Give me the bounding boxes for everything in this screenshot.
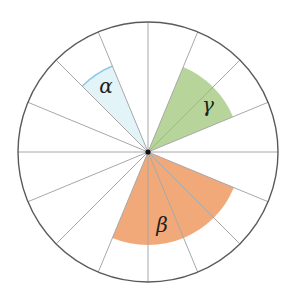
angle-circle-diagram: α γ β [0, 0, 299, 303]
center-point [145, 149, 150, 154]
angle-label-gamma: γ [202, 93, 214, 117]
sector-beta [112, 152, 234, 245]
sector-alpha [82, 66, 148, 152]
angle-label-alpha: α [99, 74, 113, 98]
angle-label-beta: β [155, 213, 168, 237]
